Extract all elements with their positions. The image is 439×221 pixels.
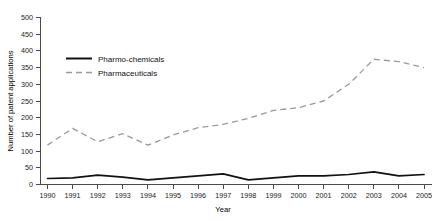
x-tick-label: 2002 [341, 191, 357, 200]
x-tick-label: 2000 [291, 191, 307, 200]
x-axis-tick-labels: 1990 1991 1992 1993 1994 1995 1996 1997 … [40, 191, 433, 200]
y-tick-label: 200 [21, 113, 33, 122]
x-tick-label: 1997 [215, 191, 231, 200]
y-tick-label: 400 [21, 46, 33, 55]
x-tick-label: 1992 [90, 191, 106, 200]
x-tick-label: 1994 [140, 191, 156, 200]
x-tick-label: 1993 [115, 191, 131, 200]
y-axis-title: Number of patent applications [6, 50, 15, 151]
x-tick-label: 1991 [65, 191, 81, 200]
y-tick-label: 450 [21, 30, 33, 39]
x-tick-label: 1990 [40, 191, 56, 200]
legend-label-pharmaceuticals: Pharmaceuticals [98, 69, 157, 78]
y-tick-label: 350 [21, 63, 33, 72]
x-tick-label: 1999 [265, 191, 281, 200]
legend-label-pharmo-chemicals: Pharmo-chemicals [98, 55, 164, 64]
chart-legend: Pharmo-chemicals Pharmaceuticals [66, 55, 164, 78]
x-tick-label: 2003 [366, 191, 382, 200]
y-axis-tick-labels: 500 450 400 350 300 250 200 150 100 50 0 [21, 13, 33, 189]
y-axis-ticks [36, 18, 41, 185]
x-tick-label: 2001 [316, 191, 332, 200]
x-tick-label: 1995 [165, 191, 181, 200]
x-tick-label: 2005 [416, 191, 432, 200]
x-axis-ticks [48, 185, 425, 190]
series-line-pharmo-chemicals [48, 172, 425, 180]
y-tick-label: 0 [29, 180, 33, 189]
x-tick-label: 1996 [190, 191, 206, 200]
y-tick-label: 50 [25, 163, 33, 172]
y-tick-label: 500 [21, 13, 33, 22]
y-tick-label: 100 [21, 147, 33, 156]
x-tick-label: 2004 [391, 191, 407, 200]
x-tick-label: 1998 [240, 191, 256, 200]
y-tick-label: 300 [21, 80, 33, 89]
line-chart: 500 450 400 350 300 250 200 150 100 50 0 [0, 0, 439, 221]
x-axis-title: Year [215, 205, 231, 214]
chart-canvas: 500 450 400 350 300 250 200 150 100 50 0 [0, 0, 439, 221]
y-tick-label: 150 [21, 130, 33, 139]
y-tick-label: 250 [21, 97, 33, 106]
